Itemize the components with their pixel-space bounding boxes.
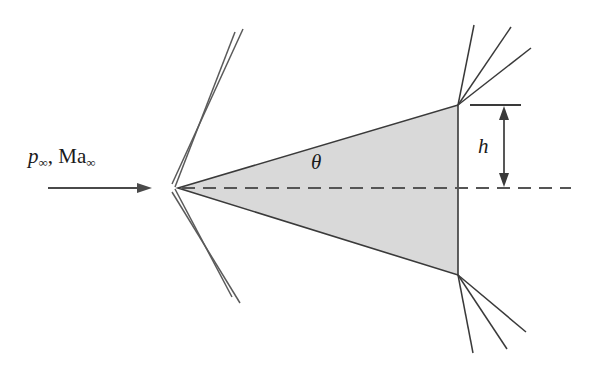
upper-shock-line-outer [172, 29, 243, 184]
flow-arrow-head [137, 183, 152, 193]
lower-expansion-fan-group [458, 275, 526, 353]
wedge-flow-diagram [0, 0, 589, 367]
upper-shock-wave-group [172, 29, 243, 187]
upper-shock-line-inner [175, 32, 235, 187]
wedge-body [178, 105, 458, 275]
lower-shock-line-outer [172, 192, 240, 303]
height-arrow-head-top [499, 106, 509, 120]
height-arrow-head-bottom [499, 173, 509, 187]
upper-expansion-fan-group [458, 25, 531, 105]
freestream-flow-arrow [48, 183, 152, 193]
lower-fan-line-3 [458, 275, 526, 332]
lower-shock-wave-group [172, 189, 240, 303]
upper-fan-line-3 [458, 48, 531, 105]
figure-root: p∞, Ma∞ θ h [0, 0, 589, 367]
height-dimension-arrow [499, 106, 509, 187]
